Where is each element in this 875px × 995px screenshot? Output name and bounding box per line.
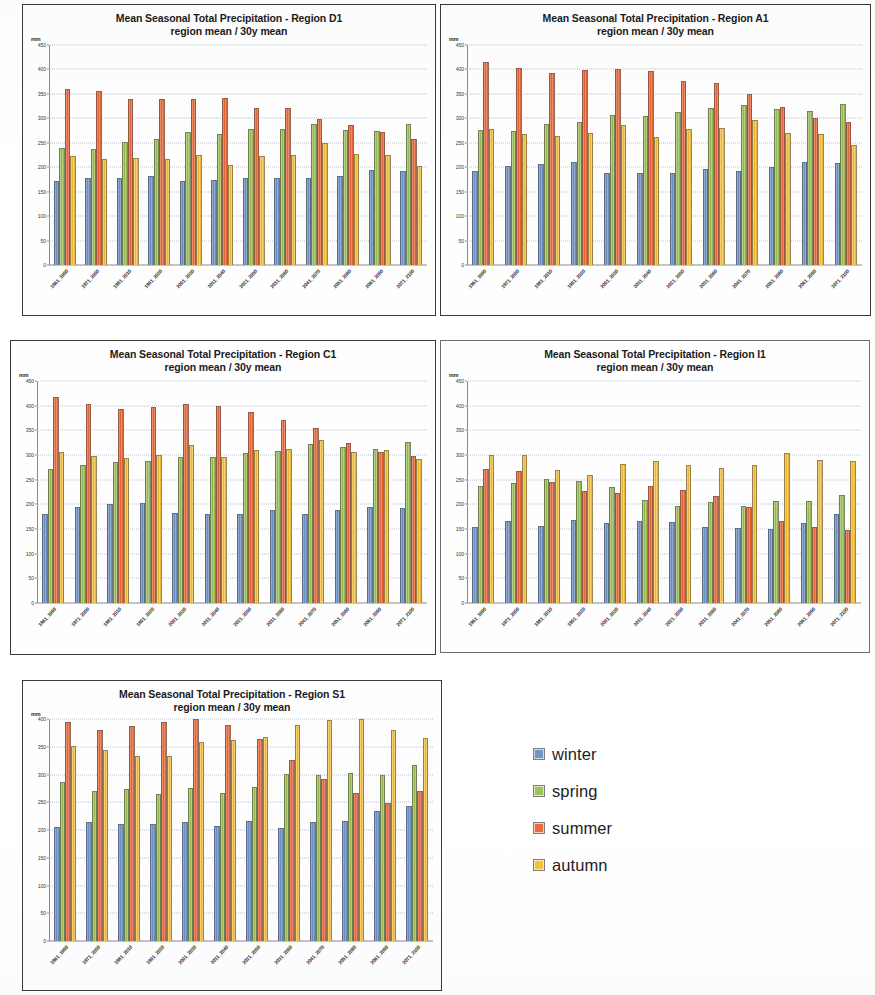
x-axis-label-cell: 2041_2070 xyxy=(305,942,337,988)
x-axis-label-cell: 1961_1990 xyxy=(467,266,500,312)
bar-autumn xyxy=(817,460,823,603)
y-axis-tick-label: 250 xyxy=(26,477,34,483)
bar-group xyxy=(167,381,200,603)
plot-area-i1: 050100150200250300350400450 xyxy=(441,381,869,603)
x-axis-tick-label: 2051_2080 xyxy=(764,268,785,289)
x-axis-tick-label: 1991_2020 xyxy=(145,944,166,965)
chart-panel-s1: Mean Seasonal Total Precipitation - Regi… xyxy=(22,680,442,991)
x-axis-label-cell: 2051_2080 xyxy=(330,604,363,650)
bar-group xyxy=(81,719,113,941)
bar-group xyxy=(762,381,795,603)
y-axis-tick-label: 450 xyxy=(456,42,464,48)
bar-autumn xyxy=(489,455,495,603)
chart-title-a1: Mean Seasonal Total Precipitation - Regi… xyxy=(441,5,870,39)
x-axis-tick-label: 2001_2030 xyxy=(177,944,198,965)
y-axis-tick-label: 350 xyxy=(38,744,46,750)
bar-autumn xyxy=(70,156,76,265)
x-axis-label-cell: 2031_2060 xyxy=(273,942,305,988)
x-axis-tick-label: 2071_2100 xyxy=(395,268,416,289)
x-axis-labels-c1: 1961_19901971_20001981_20101991_20202001… xyxy=(37,604,427,650)
chart-title-d1: Mean Seasonal Total Precipitation - Regi… xyxy=(23,5,435,39)
bar-autumn xyxy=(620,464,626,603)
bar-groups xyxy=(467,45,862,265)
bar-autumn xyxy=(291,155,297,265)
x-axis-tick-label: 1961_1990 xyxy=(467,268,488,289)
bar-group xyxy=(362,381,395,603)
x-axis-label-cell: 2071_2100 xyxy=(828,604,861,650)
bar-autumn xyxy=(686,129,692,265)
bar-group xyxy=(238,45,270,265)
bar-group xyxy=(273,719,305,941)
bar-autumn xyxy=(391,730,397,941)
bar-group xyxy=(697,381,730,603)
chart-panel-a1: Mean Seasonal Total Precipitation - Regi… xyxy=(440,4,871,316)
x-axis-tick-label: 1961_1990 xyxy=(49,268,70,289)
bar-group xyxy=(796,45,829,265)
x-axis-label-cell: 2071_2100 xyxy=(829,266,862,312)
x-axis-tick-label: 2021_2050 xyxy=(664,606,685,627)
bar-group xyxy=(631,381,664,603)
x-axis-tick-label: 2071_2100 xyxy=(829,268,850,289)
bar-group xyxy=(175,45,207,265)
x-axis-tick-label: 2011_2040 xyxy=(632,606,652,627)
x-axis-tick-label: 2021_2050 xyxy=(238,268,259,289)
x-axis-label-cell: 1991_2020 xyxy=(135,604,168,650)
bar-autumn xyxy=(354,154,360,265)
chart-panel-i1: Mean Seasonal Total Precipitation - Regi… xyxy=(440,340,870,653)
y-axis-tick-label: 350 xyxy=(38,91,46,97)
x-axis-tick-label: 2041_2070 xyxy=(730,606,751,627)
x-axis-tick-label: 1981_2010 xyxy=(533,606,554,627)
legend-item-spring[interactable]: spring xyxy=(533,782,733,800)
bar-autumn xyxy=(71,746,77,941)
x-axis-tick-label: 2001_2030 xyxy=(599,606,620,627)
y-axis-tick-label: 450 xyxy=(26,378,34,384)
bar-group xyxy=(297,381,330,603)
x-axis-tick-label: 2011_2040 xyxy=(632,268,652,289)
x-axis-tick-label: 1981_2010 xyxy=(112,268,133,289)
x-axis-tick-label: 2041_2070 xyxy=(297,606,318,627)
legend-item-summer[interactable]: summer xyxy=(533,819,733,837)
legend-item-winter[interactable]: winter xyxy=(533,745,733,763)
x-axis-tick-label: 1981_2010 xyxy=(113,944,134,965)
bar-autumn xyxy=(196,155,202,265)
y-axis-tick-label: 50 xyxy=(458,238,464,244)
plot-area-c1: 050100150200250300350400450 xyxy=(11,381,435,603)
bar-autumn xyxy=(818,134,824,265)
x-axis-tick-label: 1961_1990 xyxy=(37,606,58,627)
y-axis-tick-label: 100 xyxy=(456,551,464,557)
bar-group xyxy=(305,719,337,941)
x-axis-label-cell: 2041_2070 xyxy=(297,604,330,650)
bar-group xyxy=(113,719,145,941)
x-axis-label-cell: 1961_1990 xyxy=(49,266,81,312)
x-axis-label-cell: 2071_2100 xyxy=(395,604,428,650)
legend-item-autumn[interactable]: autumn xyxy=(533,856,733,874)
bar-group xyxy=(135,381,168,603)
y-axis-tick-label: 250 xyxy=(456,477,464,483)
x-axis-label-cell: 1981_2010 xyxy=(533,604,566,650)
x-axis-label-cell: 2001_2030 xyxy=(599,266,632,312)
y-axis-tick-label: 450 xyxy=(456,378,464,384)
y-axis-tick-label: 300 xyxy=(38,115,46,121)
x-axis-label-cell: 2001_2030 xyxy=(598,604,631,650)
x-axis-label-cell: 2051_2080 xyxy=(763,266,796,312)
axis-area: 050100150200250300350400450 xyxy=(467,45,862,265)
bar-autumn xyxy=(385,155,391,265)
chart-subtitle: region mean / 30y mean xyxy=(23,701,441,714)
y-axis-tick-label: 400 xyxy=(456,66,464,72)
x-axis-label-cell: 1991_2020 xyxy=(566,266,599,312)
x-axis-tick-label: 1991_2020 xyxy=(566,268,587,289)
bar-group xyxy=(763,45,796,265)
x-axis-tick-label: 2021_2050 xyxy=(232,606,253,627)
bar-autumn xyxy=(384,450,390,603)
x-axis-tick-label: 2051_2080 xyxy=(763,606,784,627)
x-axis-label-cell: 2011_2040 xyxy=(632,266,665,312)
x-axis-labels-i1: 1961_19901971_20001981_20101991_20202001… xyxy=(467,604,861,650)
x-axis-label-cell: 2021_2050 xyxy=(238,266,270,312)
bar-autumn xyxy=(588,133,594,265)
x-axis-label-cell: 1981_2010 xyxy=(533,266,566,312)
bar-autumn xyxy=(587,475,593,603)
bar-autumn xyxy=(254,450,260,603)
x-axis-tick-label: 2031_2060 xyxy=(698,268,719,289)
bar-autumn xyxy=(319,440,325,603)
swatch-inner xyxy=(534,823,544,833)
